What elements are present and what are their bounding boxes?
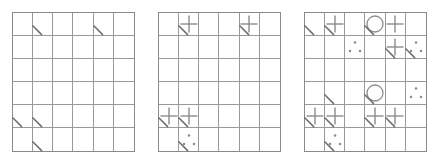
grid-cell[interactable] xyxy=(345,105,365,128)
grid-cell[interactable] xyxy=(159,13,179,36)
grid-cell[interactable] xyxy=(53,36,73,59)
grid-cell[interactable] xyxy=(179,82,199,105)
grid-cell[interactable] xyxy=(325,13,345,36)
grid-cell[interactable] xyxy=(345,36,365,59)
grid-cell[interactable] xyxy=(199,36,219,59)
grid-cell[interactable] xyxy=(159,36,179,59)
grid-cell[interactable] xyxy=(13,36,33,59)
grid-cell[interactable] xyxy=(53,128,73,151)
grid-cell[interactable] xyxy=(219,13,239,36)
grid-cell[interactable] xyxy=(240,13,260,36)
grid-cell[interactable] xyxy=(94,128,114,151)
grid-cell[interactable] xyxy=(159,105,179,128)
grid-cell[interactable] xyxy=(159,59,179,82)
grid-cell[interactable] xyxy=(13,82,33,105)
grid-cell[interactable] xyxy=(325,36,345,59)
grid-cell[interactable] xyxy=(179,13,199,36)
grid-cell[interactable] xyxy=(325,128,345,151)
grid-cell[interactable] xyxy=(73,59,93,82)
grid-cell[interactable] xyxy=(260,105,280,128)
grid-cell[interactable] xyxy=(386,59,406,82)
grid-cell[interactable] xyxy=(53,59,73,82)
grid-cell[interactable] xyxy=(33,82,53,105)
grid-cell[interactable] xyxy=(73,36,93,59)
grid-cell[interactable] xyxy=(240,36,260,59)
grid-cell[interactable] xyxy=(260,82,280,105)
grid-cell[interactable] xyxy=(345,59,365,82)
grid-cell[interactable] xyxy=(33,59,53,82)
grid-cell[interactable] xyxy=(94,105,114,128)
grid-cell[interactable] xyxy=(260,13,280,36)
grid-cell[interactable] xyxy=(260,128,280,151)
grid-cell[interactable] xyxy=(73,128,93,151)
grid-cell[interactable] xyxy=(179,36,199,59)
grid-cell[interactable] xyxy=(406,36,426,59)
grid-cell[interactable] xyxy=(94,13,114,36)
grid-cell[interactable] xyxy=(305,36,325,59)
grid-cell[interactable] xyxy=(199,59,219,82)
grid-cell[interactable] xyxy=(159,128,179,151)
grid-cell[interactable] xyxy=(33,36,53,59)
grid-cell[interactable] xyxy=(13,13,33,36)
grid-cell[interactable] xyxy=(114,13,134,36)
grid-cell[interactable] xyxy=(179,128,199,151)
grid-cell[interactable] xyxy=(325,59,345,82)
grid-cell[interactable] xyxy=(199,128,219,151)
grid-cell[interactable] xyxy=(219,36,239,59)
grid-cell[interactable] xyxy=(199,13,219,36)
grid-cell[interactable] xyxy=(260,36,280,59)
grid-cell[interactable] xyxy=(365,13,385,36)
grid-cell[interactable] xyxy=(94,82,114,105)
grid-cell[interactable] xyxy=(53,105,73,128)
grid-cell[interactable] xyxy=(325,105,345,128)
grid-cell[interactable] xyxy=(365,82,385,105)
grid-cell[interactable] xyxy=(365,36,385,59)
grid-cell[interactable] xyxy=(114,105,134,128)
grid-cell[interactable] xyxy=(53,13,73,36)
grid-cell[interactable] xyxy=(13,105,33,128)
grid-cell[interactable] xyxy=(386,82,406,105)
grid-cell[interactable] xyxy=(199,82,219,105)
grid-cell[interactable] xyxy=(219,105,239,128)
grid-cell[interactable] xyxy=(114,36,134,59)
grid-cell[interactable] xyxy=(406,13,426,36)
grid-cell[interactable] xyxy=(345,82,365,105)
grid-cell[interactable] xyxy=(365,128,385,151)
grid-cell[interactable] xyxy=(179,59,199,82)
grid-cell[interactable] xyxy=(386,36,406,59)
grid-cell[interactable] xyxy=(406,59,426,82)
grid-cell[interactable] xyxy=(114,82,134,105)
grid-cell[interactable] xyxy=(219,128,239,151)
grid-cell[interactable] xyxy=(199,105,219,128)
grid-cell[interactable] xyxy=(73,105,93,128)
grid-cell[interactable] xyxy=(240,82,260,105)
grid-cell[interactable] xyxy=(345,13,365,36)
grid-cell[interactable] xyxy=(94,59,114,82)
grid-cell[interactable] xyxy=(94,36,114,59)
grid-cell[interactable] xyxy=(386,13,406,36)
grid-cell[interactable] xyxy=(406,128,426,151)
grid-cell[interactable] xyxy=(260,59,280,82)
grid-cell[interactable] xyxy=(386,128,406,151)
grid-cell[interactable] xyxy=(305,128,325,151)
grid-cell[interactable] xyxy=(240,59,260,82)
grid-cell[interactable] xyxy=(386,105,406,128)
grid-cell[interactable] xyxy=(365,59,385,82)
grid-cell[interactable] xyxy=(73,82,93,105)
grid-cell[interactable] xyxy=(305,82,325,105)
grid-cell[interactable] xyxy=(219,82,239,105)
grid-cell[interactable] xyxy=(406,82,426,105)
grid-cell[interactable] xyxy=(305,59,325,82)
grid-cell[interactable] xyxy=(114,59,134,82)
grid-cell[interactable] xyxy=(53,82,73,105)
grid-cell[interactable] xyxy=(33,13,53,36)
grid-cell[interactable] xyxy=(305,105,325,128)
grid-cell[interactable] xyxy=(179,105,199,128)
grid-cell[interactable] xyxy=(240,105,260,128)
grid-cell[interactable] xyxy=(73,13,93,36)
grid-cell[interactable] xyxy=(114,128,134,151)
grid-cell[interactable] xyxy=(33,105,53,128)
grid-cell[interactable] xyxy=(159,82,179,105)
grid-cell[interactable] xyxy=(305,13,325,36)
grid-cell[interactable] xyxy=(13,128,33,151)
